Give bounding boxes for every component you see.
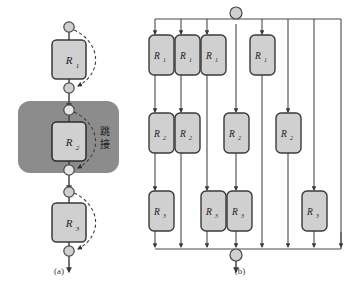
block-rect bbox=[227, 191, 252, 231]
skip-annotation-line2: 接 bbox=[100, 138, 110, 150]
panel-b-block-R1-c[interactable]: R 1 bbox=[201, 35, 226, 75]
block-label: R bbox=[231, 207, 238, 217]
panel-b-block-R3-d[interactable]: R 3 bbox=[302, 191, 327, 231]
block-label: R bbox=[254, 51, 261, 61]
block-sub: 2 bbox=[189, 135, 192, 141]
figure-residual-network-unraveled: R 1 R 2 R 3 bbox=[0, 0, 349, 296]
block-rect bbox=[250, 35, 275, 75]
block-sub-R3: 3 bbox=[75, 225, 80, 233]
block-sub: 1 bbox=[163, 57, 166, 63]
node-a-3[interactable] bbox=[64, 105, 74, 115]
block-label: R bbox=[205, 207, 212, 217]
panel-b-block-R1-b[interactable]: R 1 bbox=[175, 35, 200, 75]
block-label-R1: R bbox=[65, 54, 73, 66]
block-sub: 2 bbox=[290, 135, 293, 141]
block-rect bbox=[201, 191, 226, 231]
block-label: R bbox=[153, 207, 160, 217]
panel-a-block-R1[interactable]: R 1 bbox=[52, 40, 86, 79]
panel-b-caption: (b) bbox=[225, 266, 255, 276]
block-rect bbox=[201, 35, 226, 75]
block-sub-R1: 1 bbox=[76, 62, 80, 70]
block-label-R3: R bbox=[65, 217, 73, 229]
block-rect bbox=[149, 113, 174, 153]
panel-a-group: R 1 R 2 R 3 bbox=[18, 22, 119, 272]
block-rect bbox=[175, 35, 200, 75]
block-sub: 1 bbox=[189, 57, 192, 63]
block-label: R bbox=[205, 51, 212, 61]
block-rect bbox=[302, 191, 327, 231]
block-label-R2: R bbox=[65, 136, 73, 148]
panel-b-block-R1-a[interactable]: R 1 bbox=[149, 35, 174, 75]
panel-b-row-1: R 1 R 1 R 1 R 1 bbox=[149, 35, 275, 75]
panel-b-block-R2-a[interactable]: R 2 bbox=[149, 113, 174, 153]
panel-b-block-R1-d[interactable]: R 1 bbox=[250, 35, 275, 75]
block-sub: 3 bbox=[214, 213, 218, 219]
block-sub: 3 bbox=[162, 213, 166, 219]
node-a-4[interactable] bbox=[64, 165, 74, 175]
output-node[interactable] bbox=[230, 249, 242, 261]
block-rect bbox=[224, 113, 249, 153]
block-rect bbox=[149, 35, 174, 75]
block-sub: 1 bbox=[215, 57, 218, 63]
block-label: R bbox=[179, 129, 186, 139]
panel-b-group: R 1 R 1 R 1 R 1 bbox=[149, 7, 341, 272]
panel-b-row-3: R 3 R 3 R 3 R 3 bbox=[149, 191, 327, 231]
block-label: R bbox=[228, 129, 235, 139]
diagram-canvas: R 1 R 2 R 3 bbox=[0, 0, 349, 296]
panel-b-block-R2-c[interactable]: R 2 bbox=[224, 113, 249, 153]
block-rect bbox=[149, 191, 174, 231]
node-a-1[interactable] bbox=[64, 22, 74, 32]
block-sub: 3 bbox=[240, 213, 244, 219]
panel-b-block-R3-a[interactable]: R 3 bbox=[149, 191, 174, 231]
block-rect bbox=[276, 113, 301, 153]
block-sub: 2 bbox=[238, 135, 241, 141]
panel-b-block-R2-d[interactable]: R 2 bbox=[276, 113, 301, 153]
skip-annotation-line1: 跳 bbox=[100, 125, 110, 137]
node-a-6[interactable] bbox=[64, 246, 74, 256]
block-label: R bbox=[280, 129, 287, 139]
panel-b-row-2: R 2 R 2 R 2 R 2 bbox=[149, 113, 301, 153]
node-a-2[interactable] bbox=[64, 83, 74, 93]
block-label: R bbox=[179, 51, 186, 61]
block-label: R bbox=[153, 51, 160, 61]
panel-a-caption: (a) bbox=[44, 266, 74, 276]
block-sub: 3 bbox=[315, 213, 319, 219]
panel-a-block-R2[interactable]: R 2 bbox=[52, 122, 86, 161]
panel-b-block-R3-b[interactable]: R 3 bbox=[201, 191, 226, 231]
block-sub: 1 bbox=[264, 57, 267, 63]
node-a-5[interactable] bbox=[64, 187, 74, 197]
input-node[interactable] bbox=[230, 7, 242, 19]
panel-b-block-R2-b[interactable]: R 2 bbox=[175, 113, 200, 153]
block-sub-R2: 2 bbox=[76, 144, 80, 152]
block-label: R bbox=[306, 207, 313, 217]
panel-a-block-R3[interactable]: R 3 bbox=[52, 203, 86, 242]
block-sub: 2 bbox=[163, 135, 166, 141]
block-rect bbox=[175, 113, 200, 153]
block-label: R bbox=[153, 129, 160, 139]
panel-b-block-R3-c[interactable]: R 3 bbox=[227, 191, 252, 231]
